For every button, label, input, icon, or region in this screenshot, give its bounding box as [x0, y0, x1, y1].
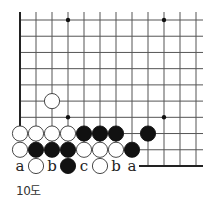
grid-lines	[20, 12, 203, 166]
white-stone-icon	[28, 126, 43, 141]
black-stone-icon	[28, 142, 43, 157]
diagram-caption: 10도	[16, 181, 41, 198]
black-stone-icon	[92, 126, 107, 141]
white-stone-icon	[60, 126, 75, 141]
point-label-c: c	[80, 157, 88, 175]
white-stone-icon	[28, 158, 43, 173]
white-stone-icon	[44, 126, 59, 141]
black-stone-icon	[124, 142, 139, 157]
black-stone-icon	[60, 158, 75, 173]
white-stone-icon	[12, 142, 27, 157]
black-stone-icon	[60, 142, 75, 157]
star-point-icon	[162, 18, 166, 22]
star-point-icon	[66, 115, 70, 119]
white-stone-icon	[12, 126, 27, 141]
black-stone-icon	[140, 126, 155, 141]
black-stone-icon	[108, 126, 123, 141]
white-stone-icon	[92, 158, 107, 173]
black-stone-icon	[76, 126, 91, 141]
star-point-icon	[66, 18, 70, 22]
black-stone-icon	[44, 142, 59, 157]
white-stone-icon	[108, 142, 123, 157]
point-label-b: b	[111, 157, 121, 175]
go-board-diagram: abcba	[0, 0, 215, 202]
point-label-a: a	[16, 157, 25, 175]
point-label-b: b	[47, 157, 57, 175]
star-point-icon	[162, 115, 166, 119]
white-stone-icon	[92, 142, 107, 157]
white-stone-icon	[76, 142, 91, 157]
white-stone-icon	[44, 94, 59, 109]
point-label-a: a	[128, 157, 137, 175]
